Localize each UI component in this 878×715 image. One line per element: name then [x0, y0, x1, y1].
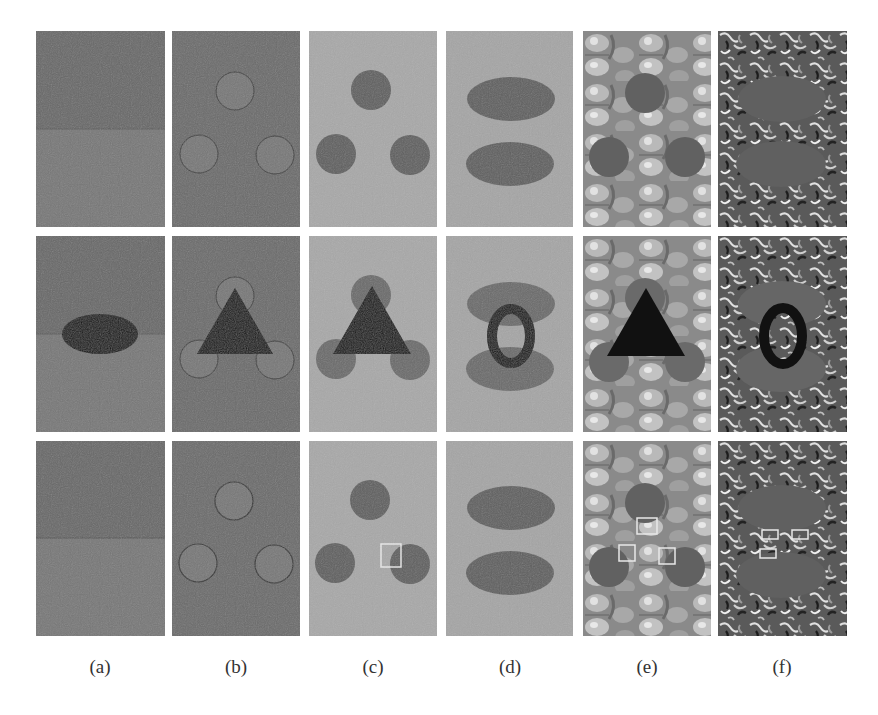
panel-b-row2 — [172, 236, 300, 432]
panel-a-row2 — [36, 236, 165, 432]
panel-c-row3 — [309, 441, 437, 636]
panel-b-row1 — [172, 31, 300, 227]
panel-d-row2 — [446, 236, 573, 432]
panel-d-row1 — [446, 31, 573, 227]
caption-label-e: (e) — [583, 656, 711, 678]
caption-label-c: (c) — [309, 656, 437, 678]
caption-label-f: (f) — [718, 656, 846, 678]
panel-c-row2 — [309, 236, 437, 432]
panel-e-row1 — [583, 31, 711, 227]
panel-f-row1 — [718, 31, 847, 227]
panel-d-row3 — [446, 441, 573, 636]
caption-label-b: (b) — [172, 656, 300, 678]
panel-a-row3 — [36, 441, 165, 636]
panel-e-row2 — [583, 236, 711, 432]
panel-a-row1 — [36, 31, 165, 227]
panel-f-row2 — [718, 236, 847, 432]
panel-e-row3 — [583, 441, 711, 636]
caption-label-a: (a) — [36, 656, 164, 678]
panel-b-row3 — [172, 441, 300, 636]
panel-f-row3 — [718, 441, 847, 636]
panel-c-row1 — [309, 31, 437, 227]
caption-label-d: (d) — [446, 656, 574, 678]
